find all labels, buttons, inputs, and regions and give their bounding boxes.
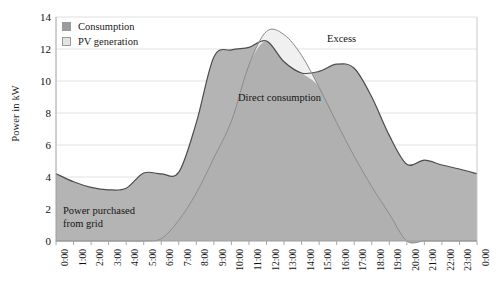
y-tick-4: 4	[29, 171, 51, 183]
y-tick-10: 10	[29, 75, 51, 87]
x-tick-2: 2:00	[95, 249, 105, 266]
x-tick-8: 8:00	[200, 249, 210, 266]
x-tick-1: 1:00	[78, 249, 88, 266]
x-tick-18: 18:00	[376, 249, 386, 271]
legend-label-consumption: Consumption	[78, 19, 135, 34]
y-tick-14: 14	[29, 11, 51, 23]
annotation-excess: Excess	[327, 33, 356, 46]
x-tick-5: 5:00	[148, 249, 158, 266]
x-tick-15: 15:00	[323, 249, 333, 271]
chart-legend: Consumption PV generation	[62, 19, 138, 49]
x-tick-7: 7:00	[183, 249, 193, 266]
x-tick-3: 3:00	[113, 249, 123, 266]
x-tick-0: 0:00	[60, 249, 70, 266]
x-tick-21: 21:00	[428, 249, 438, 271]
x-tick-6: 6:00	[165, 249, 175, 266]
x-tick-11: 11:00	[253, 249, 263, 270]
x-tick-23: 23:00	[463, 249, 473, 271]
x-tick-9: 9:00	[218, 249, 228, 266]
legend-item-consumption: Consumption	[62, 19, 138, 34]
legend-swatch-pv-icon	[62, 37, 71, 46]
legend-label-pv-generation: PV generation	[78, 34, 138, 49]
x-tick-14: 14:00	[306, 249, 316, 271]
x-tick-12: 12:00	[271, 249, 281, 271]
annotation-direct-consumption: Direct consumption	[238, 92, 321, 105]
x-tick-22: 22:00	[446, 249, 456, 271]
y-tick-6: 6	[29, 139, 51, 151]
annotation-power-purchased-line2: from grid	[63, 218, 135, 231]
x-tick-19: 19:00	[393, 249, 403, 271]
legend-item-pv-generation: PV generation	[62, 34, 138, 49]
y-axis-title: Power in kW	[10, 69, 21, 159]
annotation-power-purchased: Power purchased from grid	[63, 205, 135, 230]
x-tick-10: 10:00	[235, 249, 245, 271]
y-tick-12: 12	[29, 43, 51, 55]
x-tick-20: 20:00	[411, 249, 421, 271]
x-axis-ticks: 0:001:002:003:004:005:006:007:008:009:00…	[0, 243, 497, 289]
x-tick-17: 17:00	[358, 249, 368, 271]
x-tick-16: 16:00	[341, 249, 351, 271]
annotation-power-purchased-line1: Power purchased	[63, 205, 135, 218]
x-tick-4: 4:00	[130, 249, 140, 266]
legend-swatch-consumption-icon	[62, 22, 71, 31]
chart-container: Power in kW 14 12 10 8 6 4 2 0	[0, 0, 497, 289]
x-tick-13: 13:00	[288, 249, 298, 271]
y-tick-8: 8	[29, 107, 51, 119]
x-tick-24: 0:00	[481, 249, 491, 266]
y-tick-2: 2	[29, 203, 51, 215]
